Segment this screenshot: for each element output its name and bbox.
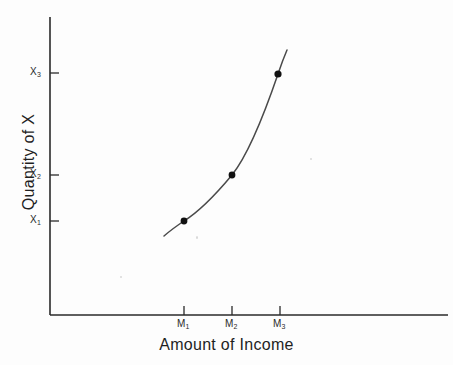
x-tick-label-m3: M3 xyxy=(273,318,286,329)
y-tick-label-x3: X3 xyxy=(30,66,41,77)
y-axis-title: Quantity of X xyxy=(20,82,38,242)
data-curve xyxy=(164,50,287,236)
data-point-3 xyxy=(274,70,281,77)
scan-speck xyxy=(310,158,312,160)
scan-speck xyxy=(120,276,122,278)
chart-plot-area xyxy=(0,0,453,365)
x-tick-label-m2: M2 xyxy=(225,318,238,329)
x-axis-title: Amount of Income xyxy=(0,336,453,354)
x-tick-label-m1: M1 xyxy=(177,318,190,329)
data-point-2 xyxy=(229,172,236,179)
data-point-1 xyxy=(181,218,188,225)
scan-speck xyxy=(196,236,198,239)
chart-figure: X3 X2 X1 M1 M2 M3 Amount of Income Quant… xyxy=(0,0,453,365)
